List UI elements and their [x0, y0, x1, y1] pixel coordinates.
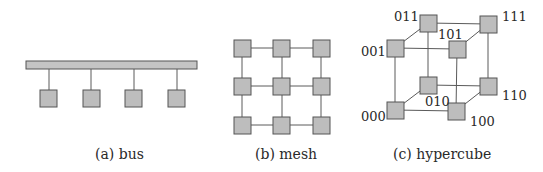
cube-node-111	[480, 16, 497, 33]
cube-node-001	[387, 40, 404, 57]
mesh-node	[313, 117, 330, 134]
mesh-node	[234, 40, 251, 57]
mesh-node	[234, 117, 251, 134]
bus-node	[168, 90, 185, 107]
caption-hypercube: (c) hypercube	[393, 146, 491, 162]
label-100: 100	[470, 114, 495, 129]
bus-node	[83, 90, 100, 107]
cube-node-000	[387, 102, 404, 119]
caption-bus: (a) bus	[95, 146, 144, 162]
label-010: 010	[425, 94, 450, 109]
label-110: 110	[502, 88, 527, 103]
mesh-node	[234, 78, 251, 95]
mesh-node	[273, 40, 290, 57]
mesh-node	[273, 117, 290, 134]
cube-node-100	[448, 103, 465, 120]
cube-node-011	[420, 15, 437, 32]
caption-mesh: (b) mesh	[255, 146, 317, 162]
label-000: 000	[361, 109, 386, 124]
bus-node	[125, 90, 142, 107]
bus-line	[26, 61, 197, 69]
mesh-topology: (b) mesh	[234, 40, 330, 162]
bus-topology: (a) bus	[26, 61, 197, 162]
bus-node	[40, 90, 57, 107]
mesh-node	[273, 78, 290, 95]
label-111: 111	[502, 9, 527, 24]
hypercube-topology: 011 111 001 101 010 110 000 100 (c) hype…	[361, 9, 527, 162]
label-011: 011	[394, 9, 419, 24]
label-001: 001	[361, 44, 386, 59]
cube-node-101	[449, 41, 466, 58]
cube-node-010	[420, 77, 437, 94]
label-101: 101	[438, 27, 463, 42]
mesh-node	[313, 40, 330, 57]
network-topologies-figure: (a) bus (b) mesh	[0, 0, 543, 172]
cube-node-110	[480, 78, 497, 95]
mesh-node	[313, 78, 330, 95]
